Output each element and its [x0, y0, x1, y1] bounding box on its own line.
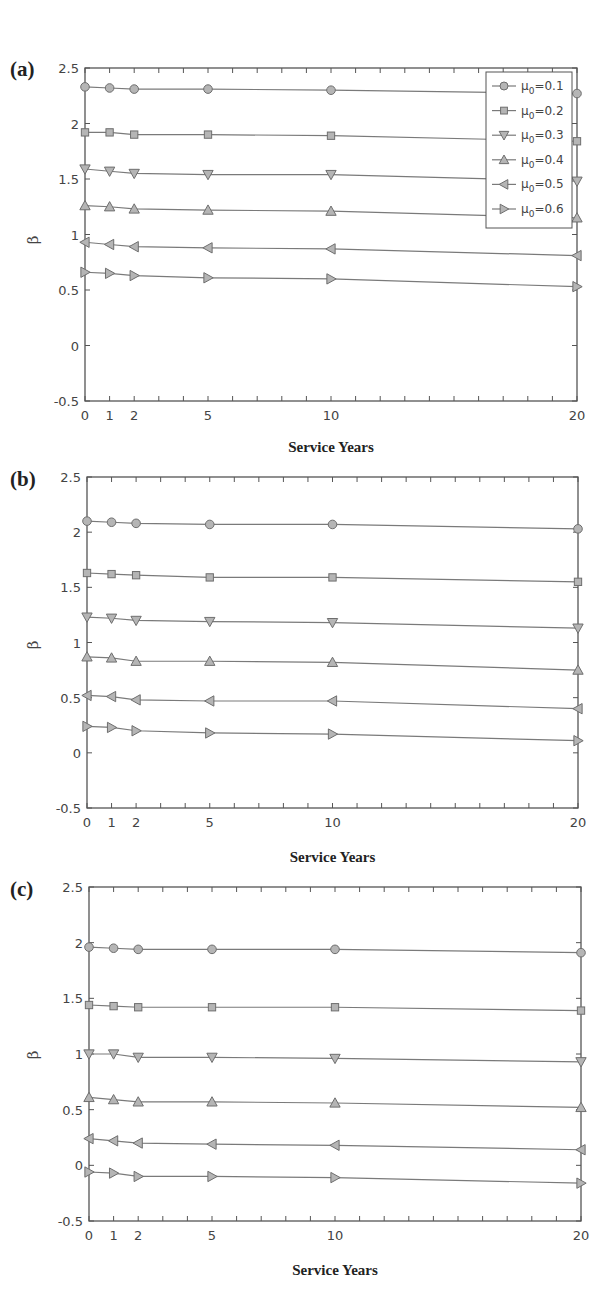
square-marker-icon: [135, 1004, 142, 1011]
x-tick-label: 2: [130, 408, 138, 423]
square-marker-icon: [573, 138, 580, 145]
y-tick-label: 1: [75, 1047, 83, 1062]
series-5: [80, 237, 581, 261]
triangle-right-marker-icon: [206, 728, 215, 738]
triangle-up-marker-icon: [84, 1092, 94, 1101]
x-tick-label: 20: [573, 1228, 590, 1243]
chart-panel-b: -0.500.511.522.501251020(b)Service Years…: [10, 467, 586, 865]
circle-marker-icon: [328, 520, 337, 529]
square-marker-icon: [106, 129, 113, 136]
triangle-left-marker-icon: [106, 691, 115, 701]
figure: -0.500.511.522.501251020(a)Service Years…: [0, 0, 616, 1304]
triangle-left-marker-icon: [327, 696, 336, 706]
square-marker-icon: [329, 574, 336, 581]
y-tick-label: 0.5: [62, 1103, 83, 1118]
triangle-left-marker-icon: [108, 1136, 117, 1146]
x-tick-label: 2: [132, 815, 140, 830]
triangle-left-marker-icon: [205, 696, 214, 706]
y-tick-label: 2.5: [62, 880, 83, 895]
circle-marker-icon: [130, 85, 139, 94]
y-tick-label: 2.5: [60, 470, 81, 485]
series-5: [82, 690, 582, 714]
series-2: [83, 569, 581, 585]
circle-marker-icon: [204, 85, 213, 94]
triangle-left-marker-icon: [104, 239, 113, 249]
circle-marker-icon: [134, 945, 143, 954]
circle-marker-icon: [574, 525, 583, 534]
y-axis-title: β: [24, 641, 42, 650]
x-axis-title: Service Years: [292, 1262, 378, 1278]
x-tick-label: 10: [324, 815, 341, 830]
y-tick-label: 2.5: [58, 61, 79, 76]
y-tick-label: 1.5: [62, 991, 83, 1006]
circle-marker-icon: [500, 82, 508, 90]
y-tick-label: 1.5: [60, 580, 81, 595]
triangle-left-marker-icon: [129, 242, 138, 252]
y-axis-title: β: [24, 236, 42, 245]
square-marker-icon: [83, 569, 90, 576]
series-1: [85, 943, 586, 957]
panel-label: (a): [10, 57, 35, 81]
square-marker-icon: [132, 572, 139, 579]
square-marker-icon: [327, 132, 334, 139]
square-marker-icon: [204, 131, 211, 138]
y-tick-label: 1.5: [58, 172, 79, 187]
triangle-up-marker-icon: [80, 200, 90, 209]
y-tick-label: 2: [75, 936, 83, 951]
triangle-right-marker-icon: [132, 726, 141, 736]
triangle-right-marker-icon: [134, 1171, 143, 1181]
square-marker-icon: [206, 574, 213, 581]
triangle-left-marker-icon: [131, 695, 140, 705]
triangle-left-marker-icon: [330, 1140, 339, 1150]
series-3: [82, 613, 583, 633]
triangle-up-marker-icon: [82, 652, 92, 661]
circle-marker-icon: [107, 518, 116, 527]
series-4: [84, 1092, 586, 1111]
series-2: [85, 1001, 584, 1014]
x-tick-label: 0: [83, 815, 91, 830]
y-tick-label: 2: [71, 117, 79, 132]
series-6: [81, 267, 582, 292]
y-tick-label: 1: [73, 636, 81, 651]
x-tick-label: 0: [81, 408, 89, 423]
series-5: [84, 1133, 585, 1154]
y-tick-label: -0.5: [56, 801, 81, 816]
x-tick-label: 1: [109, 1228, 117, 1243]
circle-marker-icon: [327, 86, 336, 95]
square-marker-icon: [131, 131, 138, 138]
panel-label: (b): [10, 467, 36, 491]
circle-marker-icon: [105, 84, 114, 93]
triangle-right-marker-icon: [109, 1168, 118, 1178]
y-tick-label: 0.5: [58, 283, 79, 298]
legend: μ0=0.1μ0=0.2μ0=0.3μ0=0.4μ0=0.5μ0=0.6: [486, 72, 572, 228]
y-axis-title: β: [24, 1051, 42, 1060]
series-6: [85, 1167, 586, 1188]
x-tick-label: 0: [85, 1228, 93, 1243]
circle-marker-icon: [85, 943, 94, 952]
x-tick-label: 5: [208, 1228, 216, 1243]
x-tick-label: 1: [105, 408, 113, 423]
triangle-right-marker-icon: [105, 268, 114, 278]
series-4: [82, 652, 583, 675]
square-marker-icon: [110, 1002, 117, 1009]
y-tick-label: 0.5: [60, 691, 81, 706]
triangle-right-marker-icon: [328, 729, 337, 739]
triangle-right-marker-icon: [208, 1171, 217, 1181]
circle-marker-icon: [109, 944, 118, 953]
y-tick-label: -0.5: [54, 394, 79, 409]
circle-marker-icon: [83, 517, 92, 526]
circle-marker-icon: [577, 948, 586, 957]
square-marker-icon: [208, 1004, 215, 1011]
panel-label: (c): [10, 877, 33, 901]
y-tick-label: 0: [71, 339, 79, 354]
x-tick-label: 2: [134, 1228, 142, 1243]
circle-marker-icon: [573, 89, 582, 98]
y-tick-label: -0.5: [58, 1214, 83, 1229]
y-tick-label: 2: [73, 525, 81, 540]
square-marker-icon: [81, 129, 88, 136]
x-tick-label: 20: [570, 815, 587, 830]
triangle-right-marker-icon: [107, 722, 116, 732]
y-tick-label: 0: [75, 1158, 83, 1173]
circle-marker-icon: [331, 945, 340, 954]
series-1: [83, 517, 583, 533]
